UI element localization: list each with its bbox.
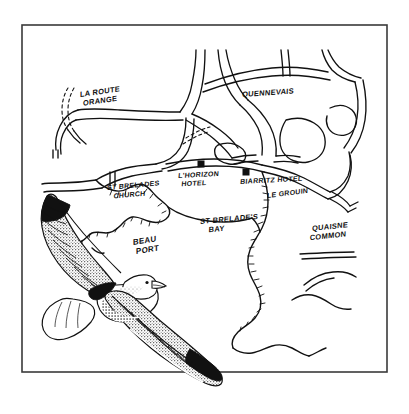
map-illustration: LA ROUTE ORANGE QUENNEVAIS L'HORIZON HOT… xyxy=(0,0,409,414)
label-st-brelades-bay-line2: BAY xyxy=(208,224,224,234)
marker-lhorizon-hotel[interactable] xyxy=(198,161,205,168)
seagull-eye xyxy=(145,281,148,284)
map-canvas: LA ROUTE ORANGE QUENNEVAIS L'HORIZON HOT… xyxy=(0,0,409,414)
marker-biarritz-hotel[interactable] xyxy=(243,169,250,176)
label-lhorizon-hotel-line2: HOTEL xyxy=(181,179,207,187)
